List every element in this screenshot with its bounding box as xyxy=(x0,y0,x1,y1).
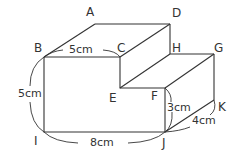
vertex-label-G: G xyxy=(214,42,223,54)
vertex-label-H: H xyxy=(172,42,181,54)
vertex-label-B: B xyxy=(34,42,42,54)
front-face xyxy=(44,57,165,132)
vertex-label-E: E xyxy=(109,92,117,104)
vertex-label-F: F xyxy=(151,90,158,102)
dim-arc-BI-top xyxy=(30,57,44,86)
vertex-label-D: D xyxy=(172,7,181,19)
dim-arc-BI-bottom xyxy=(30,102,44,132)
dimension-BC: 5cm xyxy=(69,44,93,55)
vertex-label-A: A xyxy=(86,6,94,18)
dim-arc-IJ-left xyxy=(44,132,78,143)
step-solid-diagram: A D B C H G E F K I J 5cm 5cm 8cm 3cm 4c… xyxy=(0,0,245,162)
dimension-IJ: 8cm xyxy=(90,137,114,148)
vertex-label-K: K xyxy=(218,101,226,113)
vertex-label-J: J xyxy=(162,137,166,149)
dimension-JK: 4cm xyxy=(192,115,216,126)
edge-FG xyxy=(165,54,214,88)
edge-EH xyxy=(120,54,170,88)
edge-DC xyxy=(120,24,170,57)
dim-arc-FJ-bottom xyxy=(165,112,172,132)
vertex-label-I: I xyxy=(34,135,38,147)
vertex-label-C: C xyxy=(117,42,125,54)
dim-arc-IJ-right xyxy=(128,132,165,143)
dimension-FJ: 3cm xyxy=(167,102,191,113)
dimension-BI: 5cm xyxy=(18,88,42,99)
dim-arc-FJ-top xyxy=(165,88,171,102)
